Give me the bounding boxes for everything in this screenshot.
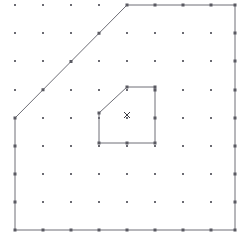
grid-dot-r3-c4 <box>126 89 128 91</box>
grid-dot-r5-c7 <box>210 145 212 147</box>
outer-right-edge-dot-1 <box>234 60 237 63</box>
outer-vertex-2 <box>234 229 237 232</box>
grid-dot-r3-c3 <box>98 89 100 91</box>
outer-right-edge-dot-0 <box>234 32 237 35</box>
grid-dot-r7-c6 <box>182 201 184 203</box>
grid-dot-r3-c7 <box>210 89 212 91</box>
grid-dot-r3-c2 <box>70 89 72 91</box>
grid-dot-r6-c1 <box>42 173 44 175</box>
diagram-canvas <box>0 0 249 245</box>
grid-dot-r3-c0 <box>14 89 16 91</box>
grid-dot-r6-c5 <box>154 173 156 175</box>
grid-dot-r2-c3 <box>98 60 100 62</box>
grid-dot-r1-c2 <box>70 32 72 34</box>
outer-right-edge-dot-4 <box>234 145 237 148</box>
outer-vertex-4 <box>14 117 17 120</box>
outer-diagonal-dot-1 <box>42 88 45 91</box>
grid-dot-r1-c7 <box>210 32 212 34</box>
outer-left-edge-dot-2 <box>14 201 17 204</box>
inner-vertex-4 <box>98 112 101 115</box>
outer-right-edge-dot-2 <box>234 89 237 92</box>
outer-left-edge-dot-0 <box>14 145 17 148</box>
grid-dot-r4-c1 <box>42 117 44 119</box>
grid-dot-r4-c6 <box>182 117 184 119</box>
grid-dot-r5-c5 <box>154 145 156 147</box>
inner-vertex-0 <box>126 86 129 89</box>
grid-dot-r6-c4 <box>126 173 128 175</box>
grid-dot-r5-c6 <box>182 145 184 147</box>
canvas-background <box>0 0 249 245</box>
grid-dot-r7-c2 <box>70 201 72 203</box>
grid-dot-r7-c5 <box>154 201 156 203</box>
outer-vertex-3 <box>14 229 17 232</box>
inner-vertex-2 <box>154 142 157 145</box>
grid-dot-r7-c7 <box>210 201 212 203</box>
outer-diagonal-dot-2 <box>70 60 73 63</box>
grid-dot-r3-c6 <box>182 89 184 91</box>
outer-top-edge-dot-1 <box>182 4 185 7</box>
inner-right-edge-dot-0 <box>154 89 157 92</box>
grid-dot-r7-c3 <box>98 201 100 203</box>
diagram-svg <box>0 0 249 245</box>
grid-dot-r2-c7 <box>210 60 212 62</box>
grid-dot-r5-c3 <box>98 145 100 147</box>
outer-left-edge-dot-1 <box>14 173 17 176</box>
outer-bottom-edge-dot-4 <box>154 229 157 232</box>
inner-vertex-3 <box>98 142 101 145</box>
grid-dot-r1-c0 <box>14 32 16 34</box>
grid-dot-r6-c7 <box>210 173 212 175</box>
grid-dot-r4-c2 <box>70 117 72 119</box>
outer-bottom-edge-dot-2 <box>98 229 101 232</box>
grid-dot-r6-c3 <box>98 173 100 175</box>
outer-bottom-edge-dot-5 <box>182 229 185 232</box>
grid-dot-r2-c6 <box>182 60 184 62</box>
grid-dot-r0-c3 <box>98 4 100 6</box>
grid-dot-r2-c5 <box>154 60 156 62</box>
outer-bottom-edge-dot-0 <box>42 229 45 232</box>
grid-dot-r7-c4 <box>126 201 128 203</box>
outer-vertex-1 <box>234 4 237 7</box>
grid-dot-r7-c1 <box>42 201 44 203</box>
inner-right-edge-dot-1 <box>154 117 157 120</box>
grid-dot-r2-c0 <box>14 60 16 62</box>
grid-dot-r1-c6 <box>182 32 184 34</box>
grid-dot-r4-c7 <box>210 117 212 119</box>
outer-right-edge-dot-6 <box>234 201 237 204</box>
inner-vertex-1 <box>154 86 157 89</box>
grid-dot-r1-c5 <box>154 32 156 34</box>
grid-dot-r0-c1 <box>42 4 44 6</box>
grid-dot-r0-c0 <box>14 4 16 6</box>
outer-vertex-0 <box>126 4 129 7</box>
grid-dot-r4-c4 <box>126 117 128 119</box>
inner-bottom-edge-dot-0 <box>126 142 129 145</box>
outer-top-edge-dot-0 <box>154 4 157 7</box>
grid-dot-r6-c6 <box>182 173 184 175</box>
outer-right-edge-dot-5 <box>234 173 237 176</box>
outer-bottom-edge-dot-3 <box>126 229 129 232</box>
grid-dot-r1-c4 <box>126 32 128 34</box>
outer-right-edge-dot-3 <box>234 117 237 120</box>
grid-dot-r6-c2 <box>70 173 72 175</box>
grid-dot-r2-c4 <box>126 60 128 62</box>
grid-dot-r2-c1 <box>42 60 44 62</box>
grid-dot-r5-c1 <box>42 145 44 147</box>
outer-bottom-edge-dot-1 <box>70 229 73 232</box>
grid-dot-r0-c2 <box>70 4 72 6</box>
grid-dot-r5-c2 <box>70 145 72 147</box>
outer-bottom-edge-dot-6 <box>210 229 213 232</box>
outer-top-edge-dot-2 <box>210 4 213 7</box>
grid-dot-r1-c1 <box>42 32 44 34</box>
outer-diagonal-dot-3 <box>98 32 101 35</box>
grid-dot-r5-c4 <box>126 145 128 147</box>
